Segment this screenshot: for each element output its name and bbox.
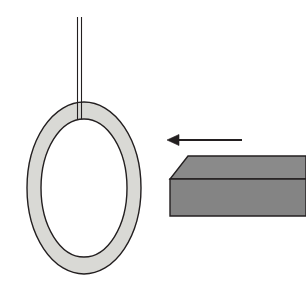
physics-diagram-figure xyxy=(0,0,306,288)
diagram-canvas xyxy=(0,0,306,288)
ring-object xyxy=(27,102,141,274)
bar-front-face xyxy=(170,179,306,216)
bar-top-face xyxy=(170,156,306,179)
bar-object xyxy=(170,156,306,216)
ring-inner-edge xyxy=(41,119,127,257)
